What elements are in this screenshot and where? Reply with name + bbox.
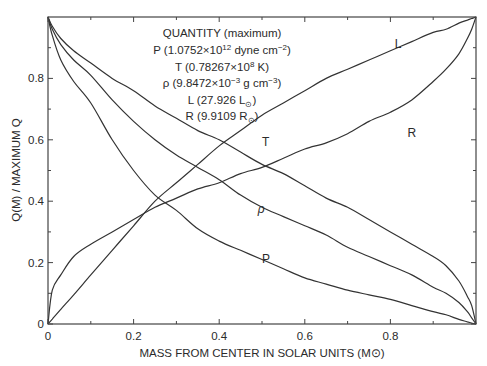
- y-tick-label: 0.2: [28, 257, 44, 269]
- plot-area: 00.20.40.60.800.20.40.60.8 PTρLR QUANTIT…: [0, 0, 487, 366]
- x-tick-label: 0.2: [126, 330, 142, 342]
- y-tick-label: 0: [38, 318, 44, 330]
- curve-label-P: P: [262, 252, 270, 266]
- x-tick-label: 0.6: [297, 330, 313, 342]
- stellar-structure-chart: 00.20.40.60.800.20.40.60.8 PTρLR QUANTIT…: [0, 0, 487, 366]
- curve-label-L: L: [395, 37, 402, 51]
- y-tick-label: 0.4: [28, 195, 45, 207]
- annotation-line-P: P (1.0752×1012 dyne cm−2): [153, 43, 291, 56]
- y-axis-title: Q(M) / MAXIMUM Q: [10, 118, 22, 222]
- annotation-line-R: R (9.9109 R⊙): [186, 110, 259, 125]
- curve-label-T: T: [262, 135, 270, 149]
- annotation-line-L: L (27.926 L⊙): [188, 94, 257, 109]
- curve-label-rho: ρ: [257, 202, 265, 216]
- y-tick-label: 0.8: [28, 72, 44, 84]
- annotation-heading: QUANTITY (maximum): [163, 27, 282, 39]
- y-tick-label: 0.6: [28, 134, 44, 146]
- curve-labels: PTρLR: [257, 37, 417, 266]
- x-tick-label: 0.8: [382, 330, 398, 342]
- curve-label-R: R: [408, 126, 417, 140]
- x-tick-label: 0: [45, 330, 51, 342]
- x-axis-title: MASS FROM CENTER IN SOLAR UNITS (M⊙): [139, 347, 384, 359]
- annotation-line-ρ: ρ (9.8472×10−3 g cm−3): [163, 76, 282, 89]
- annotation-line-T: T (0.78267×108 K): [175, 60, 269, 73]
- x-tick-label: 0.4: [211, 330, 228, 342]
